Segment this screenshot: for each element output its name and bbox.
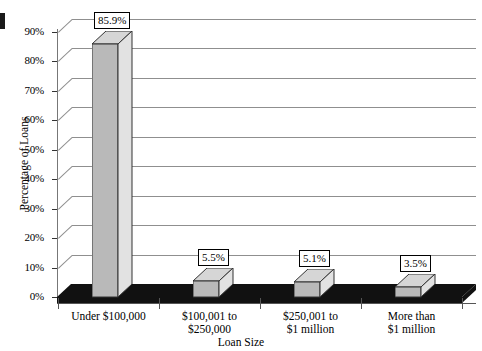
x-axis-tick [361,298,362,309]
bar-column [193,268,235,299]
x-axis-title: Loan Size [0,336,482,349]
gridline-connector [58,107,73,121]
chart-plot-area: 90%80%70%60%50%40%30%20%10%0% 85.9%5.5%5… [0,0,482,351]
gridline-connector [58,48,73,62]
category-label: More than$1 million [361,310,462,336]
gridline-connector [58,255,73,269]
gridline-connector [58,196,73,210]
x-axis-tick [462,298,463,309]
category-label-line: $100,001 to [159,310,260,323]
category-label-line: $1 million [361,323,462,336]
gridline-connector [58,137,73,151]
x-axis-tick [58,298,59,309]
category-label: $250,001 to$1 million [260,310,361,336]
y-axis-tick-label: 90% [10,26,44,37]
bar-value-label: 5.1% [299,250,330,267]
y-axis-tick-label: 0% [10,291,44,302]
category-label: $100,001 to$250,000 [159,310,260,336]
bar-column [92,31,134,299]
bar-value-label: 85.9% [94,12,130,29]
gridline-connector [58,19,73,33]
gridline-connector [58,78,73,92]
bar-column [294,269,336,299]
gridline-connector [58,166,73,180]
x-axis-line [57,303,476,304]
category-label-line: More than [361,310,462,323]
bar-column [395,274,437,299]
category-label-line: Under $100,000 [58,310,159,323]
category-label: Under $100,000 [58,310,159,323]
y-axis-title: Percentage of Loans [18,94,31,234]
y-axis-tick-label: 10% [10,262,44,273]
category-label-line: $250,000 [159,323,260,336]
x-axis-tick [260,298,261,309]
x-axis-tick [159,298,160,309]
gridline [72,19,476,20]
y-axis-tick-label: 20% [10,232,44,243]
bar-value-label: 3.5% [400,255,431,272]
gridline-connector [58,225,73,239]
y-axis-line [57,29,58,300]
category-label-line: $250,001 to [260,310,361,323]
y-axis-tick-label: 80% [10,55,44,66]
bar-value-label: 5.5% [198,249,229,266]
category-label-line: $1 million [260,323,361,336]
